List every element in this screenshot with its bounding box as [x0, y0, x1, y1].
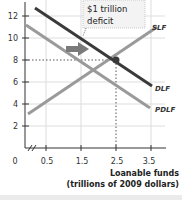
x-tick-label: 0.5: [41, 157, 54, 166]
pdlf-label: PDLF: [155, 106, 175, 114]
deficit-callout: $1 trillion deficit: [83, 0, 145, 36]
y-tick-label: 2: [13, 122, 18, 131]
x-tick-label: 0: [12, 157, 17, 166]
loanable-funds-chart: 12 10 8 6 4 2 0 0.5 1.5 2.5 3.5: [0, 0, 182, 195]
y-tick-label: 8: [13, 56, 18, 65]
y-tick-label: 4: [13, 100, 18, 109]
x-axis-title-line2: (trillions of 2009 dollars): [67, 180, 179, 189]
y-tick-label: 12: [8, 12, 18, 21]
x-tick-label: 2.5: [111, 157, 124, 166]
x-tick-label: 3.5: [143, 157, 156, 166]
x-tick-label: 1.5: [76, 157, 89, 166]
equilibrium-point: [113, 57, 120, 64]
pdlf-curve: [26, 25, 150, 108]
y-tick-label: 6: [13, 78, 18, 87]
x-axis-title-line1: Loanable funds: [110, 169, 179, 178]
slf-label: SLF: [152, 24, 167, 32]
callout-line1: $1 trillion: [87, 4, 127, 14]
dlf-label: DLF: [155, 85, 170, 93]
chart-svg: 12 10 8 6 4 2 0 0.5 1.5 2.5 3.5: [0, 0, 182, 200]
y-tick-label: 10: [8, 34, 18, 43]
callout-line2: deficit: [87, 16, 114, 26]
